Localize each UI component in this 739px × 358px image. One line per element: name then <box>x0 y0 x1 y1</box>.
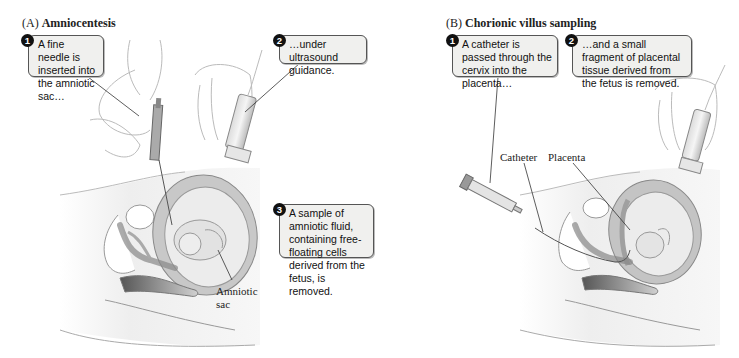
panel-a-heading: Amniocentesis <box>42 16 116 30</box>
amniotic-sac-label-line2: sac <box>216 298 230 311</box>
panel-b-letter: (B) <box>446 16 462 30</box>
placenta-label: Placenta <box>548 151 585 164</box>
step-number-badge: 2 <box>565 34 578 47</box>
panel-b-heading: Chorionic villus sampling <box>465 16 596 30</box>
amniotic-sac-label-line1: Amniotic <box>216 285 258 298</box>
panel-a-callout-2-text: …under ultrasound guidance. <box>289 38 338 76</box>
step-number-badge: 1 <box>21 34 34 47</box>
panel-b-callout-2-text: …and a small fragment of placental tissu… <box>582 38 680 89</box>
prenatal-testing-diagram: (A) Amniocentesis A fine needle is inser… <box>0 0 739 358</box>
panel-b-callout-2: …and a small fragment of placental tissu… <box>572 35 692 77</box>
step-number-badge: 1 <box>446 34 459 47</box>
catheter-label: Catheter <box>500 151 537 164</box>
panel-a-callout-3: A sample of amniotic fluid, containing f… <box>279 204 374 258</box>
step-number-badge: 3 <box>273 203 286 216</box>
panel-b-art <box>460 65 725 347</box>
step-number-badge: 2 <box>273 34 286 47</box>
panel-a-art <box>60 40 300 346</box>
panel-b-title: (B) Chorionic villus sampling <box>446 16 596 31</box>
panel-a-letter: (A) <box>22 16 39 30</box>
panel-a-title: (A) Amniocentesis <box>22 16 116 31</box>
panel-a-callout-2: …under ultrasound guidance. <box>279 35 367 64</box>
panel-a-callout-1: A fine needle is inserted into the amnio… <box>28 35 104 77</box>
panel-b-callout-1: A catheter is passed through the cervix … <box>452 35 558 77</box>
